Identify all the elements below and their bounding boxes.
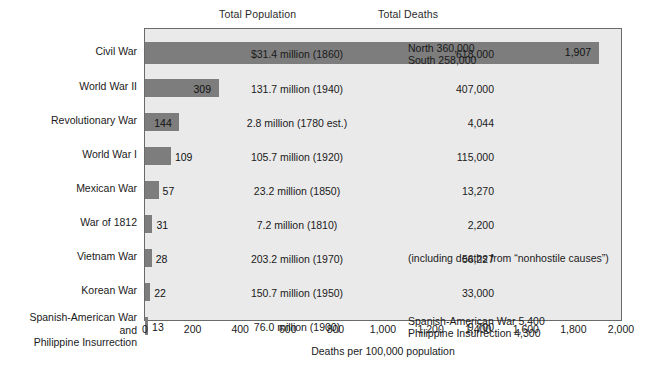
category-label-2: Revolutionary War	[0, 114, 137, 127]
category-label-7: Korean War	[0, 284, 137, 297]
chart-row: World War I109105.7 million (1920)115,00…	[0, 141, 655, 174]
chart-row: Civil War1,907$31.4 million (1860)618,00…	[0, 38, 655, 71]
chart-row: Korean War22150.7 million (1950)33,000	[0, 277, 655, 310]
x-tick-2000: 2,000	[608, 323, 634, 335]
total-population-2: 2.8 million (1780 est.)	[204, 117, 390, 129]
bar-value-7: 22	[154, 287, 166, 299]
chart-row: Mexican War5723.2 million (1850)13,270	[0, 175, 655, 208]
total-population-5: 7.2 million (1810)	[204, 219, 390, 231]
x-axis-title: Deaths per 100,000 population	[144, 345, 622, 357]
total-population-6: 203.2 million (1970)	[204, 253, 390, 265]
total-population-1: 131.7 million (1940)	[204, 83, 390, 95]
bar-5	[145, 215, 152, 233]
bar-value-3: 109	[175, 151, 193, 163]
x-tick-1800: 1,800	[560, 323, 586, 335]
total-deaths-7: 33,000	[388, 287, 494, 299]
war-deaths-chart: Total Population Total Deaths Civil War1…	[0, 0, 655, 378]
total-deaths-1: 407,000	[388, 83, 494, 95]
chart-row: World War II309131.7 million (1940)407,0…	[0, 73, 655, 106]
bar-value-2: 144	[154, 117, 172, 129]
bar-4	[145, 181, 159, 199]
column-header-total-deaths: Total Deaths	[378, 8, 438, 20]
row-note-6: (including deaths from “nonhostile cause…	[408, 253, 609, 265]
x-tick-600: 600	[279, 323, 297, 335]
chart-row: Vietnam War28203.2 million (1970)56,227(…	[0, 243, 655, 276]
category-label-8: Spanish-American War and Philippine Insu…	[0, 311, 137, 349]
total-population-7: 150.7 million (1950)	[204, 287, 390, 299]
x-axis-tick-labels: 02004006008001,0001,2001,4001,6001,8002,…	[144, 323, 622, 339]
total-deaths-4: 13,270	[388, 185, 494, 197]
x-tick-800: 800	[327, 323, 345, 335]
chart-row: War of 1812317.2 million (1810)2,200	[0, 209, 655, 242]
bar-value-6: 28	[156, 253, 168, 265]
x-tick-1200: 1,200	[417, 323, 443, 335]
bar-7	[145, 283, 150, 301]
column-header-total-population: Total Population	[219, 8, 296, 20]
category-label-0: Civil War	[0, 45, 137, 58]
category-label-5: War of 1812	[0, 216, 137, 229]
x-tick-400: 400	[231, 323, 249, 335]
bar-value-4: 57	[163, 185, 175, 197]
category-label-3: World War I	[0, 148, 137, 161]
total-population-4: 23.2 million (1850)	[204, 185, 390, 197]
x-tick-1600: 1,600	[513, 323, 539, 335]
row-note-0: North 360,000 South 258,000	[408, 43, 476, 66]
category-label-4: Mexican War	[0, 182, 137, 195]
total-population-3: 105.7 million (1920)	[204, 151, 390, 163]
bar-value-0: 1,907	[565, 46, 591, 58]
x-tick-1000: 1,000	[370, 323, 396, 335]
x-tick-1400: 1,400	[465, 323, 491, 335]
x-tick-0: 0	[142, 323, 148, 335]
bar-value-5: 31	[156, 219, 168, 231]
total-deaths-5: 2,200	[388, 219, 494, 231]
bar-3	[145, 147, 171, 165]
bar-6	[145, 249, 152, 267]
category-label-6: Vietnam War	[0, 250, 137, 263]
total-population-0: $31.4 million (1860)	[204, 48, 390, 60]
chart-row: Revolutionary War1442.8 million (1780 es…	[0, 107, 655, 140]
category-label-1: World War II	[0, 80, 137, 93]
total-deaths-2: 4,044	[388, 117, 494, 129]
x-tick-200: 200	[184, 323, 202, 335]
total-deaths-3: 115,000	[388, 151, 494, 163]
